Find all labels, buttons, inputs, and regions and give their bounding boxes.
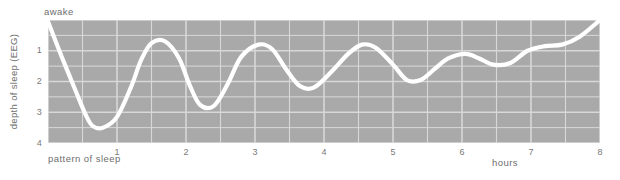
y-tick-label-2: 2	[28, 77, 42, 86]
y-tick-label-3: 3	[28, 108, 42, 117]
x-tick-label-4: 4	[314, 148, 334, 157]
hours-axis-label: hours	[492, 157, 518, 168]
x-tick-label-7: 7	[521, 148, 541, 157]
y-tick-label-4: 4	[28, 139, 42, 148]
x-tick-label-2: 2	[176, 148, 196, 157]
y-tick-label-1: 1	[28, 46, 42, 55]
x-tick-label-6: 6	[452, 148, 472, 157]
y-axis-title: depth of sleep (EEG)	[8, 22, 19, 142]
plot-canvas	[48, 20, 600, 143]
pattern-of-sleep-label: pattern of sleep	[48, 153, 121, 164]
sleep-depth-chart: awake depth of sleep (EEG) 1234 12345678…	[0, 0, 620, 180]
x-tick-label-5: 5	[383, 148, 403, 157]
awake-annotation-label: awake	[44, 6, 74, 17]
plot-area	[48, 20, 600, 143]
x-tick-label-3: 3	[245, 148, 265, 157]
x-tick-label-8: 8	[590, 148, 610, 157]
